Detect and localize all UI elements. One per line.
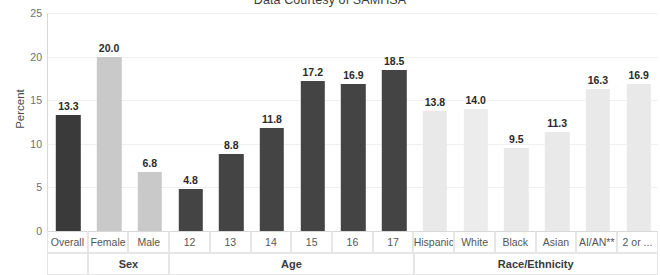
bar-column: 16.9 (333, 13, 374, 231)
bar-value-label: 4.8 (183, 174, 198, 186)
bar[interactable] (423, 111, 447, 231)
bar-value-label: 17.2 (303, 66, 323, 78)
category-cell: Overall (47, 231, 88, 253)
category-cell: 17 (373, 231, 414, 253)
bar-column: 4.8 (170, 13, 211, 231)
bar-column: 16.3 (578, 13, 619, 231)
bar-value-label: 16.9 (343, 69, 363, 81)
bar-column: 17.2 (292, 13, 333, 231)
chart-title: Data Courtesy of SAMHSA (0, 0, 660, 7)
bar-column: 18.5 (374, 13, 415, 231)
category-table: OverallFemaleMale121314151617HispanicWhi… (47, 231, 658, 275)
bar[interactable] (97, 57, 121, 231)
category-cell: Black (495, 231, 536, 253)
category-cell: 16 (332, 231, 373, 253)
bar-value-label: 8.8 (224, 139, 239, 151)
category-cell: Male (128, 231, 169, 253)
bar[interactable] (219, 154, 243, 231)
y-tick-label: 20 (8, 51, 42, 63)
bar[interactable] (382, 70, 406, 231)
bar-column: 13.8 (415, 13, 456, 231)
bar-column: 8.8 (211, 13, 252, 231)
bar-value-label: 13.8 (425, 96, 445, 108)
group-empty-cell (47, 253, 88, 275)
category-cell: 12 (169, 231, 210, 253)
category-cell: 13 (210, 231, 251, 253)
bar-value-label: 20.0 (99, 42, 119, 54)
category-cell: Asian (536, 231, 577, 253)
bar-chart: Data Courtesy of SAMHSA 0510152025 Perce… (0, 0, 660, 275)
bar-column: 6.8 (129, 13, 170, 231)
y-tick-label: 0 (8, 225, 42, 237)
bar-column: 13.3 (48, 13, 89, 231)
bar[interactable] (138, 172, 162, 231)
bar[interactable] (56, 115, 80, 231)
bar[interactable] (586, 89, 610, 231)
bar[interactable] (463, 109, 487, 231)
y-tick-label: 5 (8, 181, 42, 193)
bar[interactable] (626, 84, 650, 231)
group-label-cell: Sex (88, 253, 169, 275)
bar-column: 9.5 (496, 13, 537, 231)
bar-value-label: 18.5 (384, 55, 404, 67)
bar-value-label: 16.9 (628, 69, 648, 81)
bar[interactable] (341, 84, 365, 231)
bar-value-label: 11.8 (262, 113, 282, 125)
category-cell: White (454, 231, 495, 253)
bar-column: 20.0 (89, 13, 130, 231)
bar-value-label: 6.8 (143, 157, 158, 169)
category-cell: 14 (251, 231, 292, 253)
group-label-cell: Race/Ethnicity (414, 253, 658, 275)
plot-area: 13.320.06.84.88.811.817.216.918.513.814.… (47, 13, 658, 231)
bar-value-label: 13.3 (58, 100, 78, 112)
bar-value-label: 11.3 (547, 117, 567, 129)
y-tick-label: 25 (8, 7, 42, 19)
bar[interactable] (260, 128, 284, 231)
bar-value-label: 14.0 (465, 94, 485, 106)
bar-value-label: 16.3 (588, 74, 608, 86)
bar[interactable] (178, 189, 202, 231)
category-cell: AI/AN** (576, 231, 617, 253)
y-axis-label: Percent (14, 69, 26, 149)
bar-value-label: 9.5 (509, 133, 524, 145)
bar-column: 11.3 (537, 13, 578, 231)
bar-column: 16.9 (618, 13, 659, 231)
bar[interactable] (301, 81, 325, 231)
bar[interactable] (545, 132, 569, 231)
bar[interactable] (504, 148, 528, 231)
category-row: OverallFemaleMale121314151617HispanicWhi… (47, 231, 658, 253)
category-cell: 15 (291, 231, 332, 253)
category-cell: Hispanic (413, 231, 454, 253)
category-cell: Female (88, 231, 129, 253)
bar-column: 11.8 (252, 13, 293, 231)
category-cell: 2 or ... (617, 231, 658, 253)
bar-column: 14.0 (455, 13, 496, 231)
group-label-cell: Age (169, 253, 413, 275)
group-row: SexAgeRace/Ethnicity (47, 253, 658, 275)
